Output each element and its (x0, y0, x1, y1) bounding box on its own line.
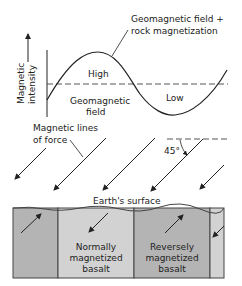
reverse-label-line1: Reversely (150, 242, 195, 252)
block-reversed-left (13, 208, 58, 278)
y-axis-label-line2: intensity (27, 64, 37, 104)
reverse-label-line3: basalt (158, 264, 186, 274)
normal-label-line2: magnetized (69, 253, 122, 263)
force-label-line2: of force (33, 135, 68, 145)
force-label-leader (70, 140, 83, 157)
low-label: Low (166, 93, 184, 103)
block-normal-right (210, 208, 224, 278)
reverse-label-line2: magnetized (145, 253, 198, 263)
force-arrow (200, 165, 224, 189)
force-arrow (15, 148, 46, 179)
magnetic-anomaly-diagram: Magnetic intensity Geomagnetic field + r… (0, 0, 242, 286)
force-label-line1: Magnetic lines (33, 123, 98, 133)
high-label: High (88, 69, 109, 79)
geomagnetic-label-line2: field (86, 107, 105, 117)
normal-label-line1: Normally (76, 242, 117, 252)
force-arrows (15, 138, 224, 191)
combined-label-line2: rock magnetization (131, 26, 218, 36)
combined-label-leader (112, 30, 128, 56)
normal-label-line3: basalt (82, 264, 110, 274)
angle-arc (180, 140, 187, 155)
force-arrow (54, 138, 106, 190)
surface-label: Earth's surface (93, 196, 161, 206)
force-arrow (103, 138, 155, 190)
combined-label-line1: Geomagnetic field + (131, 14, 224, 24)
geomagnetic-label-line1: Geomagnetic (70, 96, 130, 106)
y-axis-label-line1: Magnetic (16, 63, 26, 104)
angle-label: 45° (164, 146, 180, 156)
